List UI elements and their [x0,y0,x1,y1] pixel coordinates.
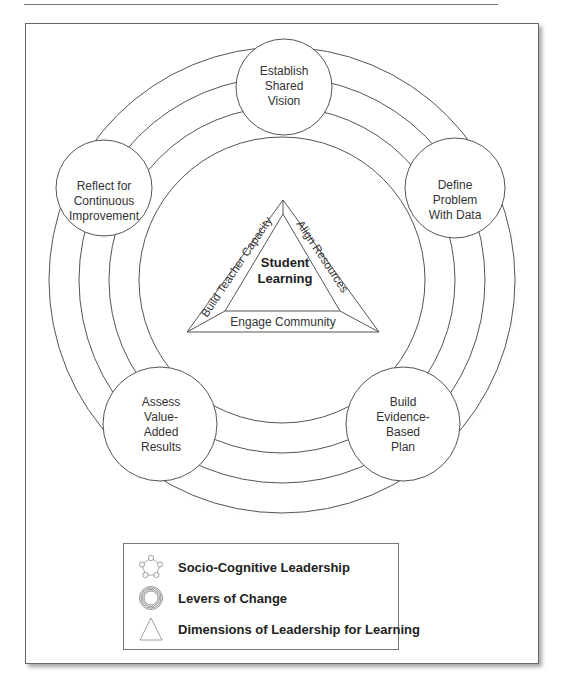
node-assess-results [103,367,217,481]
node-upper-left-line3: Improvement [69,209,140,223]
concentric-circles-icon [138,585,164,611]
node-lower-right-line1: Build [390,395,417,409]
legend-label-socio-cognitive: Socio-Cognitive Leadership [178,560,350,575]
node-lower-left-line2: Value- [144,410,178,424]
node-lower-right-line2: Evidence- [376,410,429,424]
node-upper-right-line2: Problem [433,193,478,207]
center-label-line1: Student [261,255,310,270]
node-lower-left-line1: Assess [142,395,181,409]
legend-item-levers-of-change: Levers of Change [138,585,287,611]
node-lower-left-line4: Results [141,440,181,454]
side-label-engage-community: Engage Community [230,315,335,329]
legend-label-dimensions: Dimensions of Leadership for Learning [178,622,420,637]
node-upper-right-line3: With Data [429,208,482,222]
legend-item-socio-cognitive: Socio-Cognitive Leadership [138,554,350,580]
node-lower-right-line4: Plan [391,440,415,454]
node-lower-left-line3: Added [144,425,179,439]
node-top-line3: Vision [268,94,300,108]
triangle-icon [138,616,164,642]
legend: Socio-Cognitive Leadership Levers of Cha… [123,543,399,650]
node-top-line1: Establish [260,64,309,78]
center-label-line2: Learning [258,271,313,286]
node-upper-right-line1: Define [438,178,473,192]
node-lower-right-line3: Based [386,425,420,439]
pentagon-of-circles-icon [138,554,164,580]
node-top-line2: Shared [265,79,304,93]
node-upper-left-line2: Continuous [74,194,135,208]
node-build-evidence-based-plan [346,367,460,481]
legend-item-dimensions: Dimensions of Leadership for Learning [138,616,420,642]
node-upper-left-line1: Reflect for [77,179,132,193]
legend-label-levers-of-change: Levers of Change [178,591,287,606]
